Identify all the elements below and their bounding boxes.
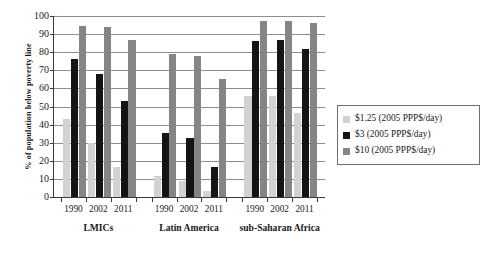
- legend-swatch-icon: [343, 132, 350, 139]
- x-tick-mark: [152, 197, 153, 202]
- y-tick-label: 80: [39, 47, 49, 57]
- bar: [186, 138, 193, 197]
- bar: [277, 40, 284, 197]
- x-tick-mark: [177, 197, 178, 202]
- bar: [96, 74, 103, 197]
- x-tick-mark: [242, 197, 243, 202]
- y-tick-label: 100: [34, 11, 49, 21]
- bar: [211, 167, 218, 197]
- x-axis-group-label: Latin America: [159, 222, 218, 233]
- x-tick-mark: [267, 197, 268, 202]
- x-tick-mark: [292, 197, 293, 202]
- x-axis-year-label: 2011: [114, 204, 132, 214]
- bar: [71, 59, 78, 197]
- bar: [128, 40, 135, 197]
- x-tick-mark: [86, 197, 87, 202]
- y-tick-label: 30: [39, 138, 49, 148]
- bar: [63, 119, 70, 197]
- bar: [88, 143, 95, 197]
- x-axis-year-label: 2002: [89, 204, 108, 214]
- bar-chart: % of population below poverty line 01020…: [0, 0, 484, 254]
- x-axis: 199020022011LMICs199020022011Latin Ameri…: [53, 197, 325, 254]
- bar: [179, 181, 186, 197]
- y-axis-title: % of population below poverty line: [24, 17, 33, 197]
- x-axis-group-label: LMICs: [83, 222, 113, 233]
- x-tick-mark: [226, 197, 227, 202]
- x-axis-year-label: 2002: [180, 204, 199, 214]
- bar: [219, 79, 226, 197]
- x-axis-year-label: 2002: [270, 204, 289, 214]
- legend-item-label: $1.25 (2005 PPP$/day): [355, 114, 442, 123]
- bar: [260, 21, 267, 197]
- legend-swatch-icon: [343, 148, 350, 155]
- x-axis-year-label: 1990: [155, 204, 174, 214]
- bar: [162, 133, 169, 197]
- x-axis-year-label: 1990: [64, 204, 83, 214]
- bar: [169, 54, 176, 197]
- legend-item: $10 (2005 PPP$/day): [343, 143, 475, 159]
- legend-item-label: $3 (2005 PPP$/day): [355, 130, 431, 139]
- bar: [194, 56, 201, 197]
- legend-item: $3 (2005 PPP$/day): [343, 127, 475, 143]
- y-tick-label: 50: [39, 102, 49, 112]
- x-tick-mark: [61, 197, 62, 202]
- bar: [285, 21, 292, 197]
- bars-layer: [54, 16, 325, 197]
- x-tick-mark: [317, 197, 318, 202]
- x-axis-year-label: 2011: [295, 204, 313, 214]
- bar: [244, 96, 251, 197]
- bar: [252, 41, 259, 197]
- y-tick-label: 90: [39, 29, 49, 39]
- legend-item: $1.25 (2005 PPP$/day): [343, 111, 475, 127]
- bar: [113, 167, 120, 197]
- y-tick-label: 10: [39, 174, 49, 184]
- y-tick-label: 0: [44, 192, 49, 202]
- x-axis-year-label: 1990: [245, 204, 264, 214]
- y-tick-label: 20: [39, 156, 49, 166]
- bar: [104, 27, 111, 197]
- y-tick-label: 70: [39, 65, 49, 75]
- bar: [79, 26, 86, 197]
- bar: [294, 113, 301, 197]
- legend-swatch-icon: [343, 116, 350, 123]
- x-tick-mark: [136, 197, 137, 202]
- x-axis-group-label: sub-Saharan Africa: [240, 222, 320, 233]
- y-tick-label: 60: [39, 83, 49, 93]
- bar: [269, 96, 276, 197]
- chart-legend: $1.25 (2005 PPP$/day)$3 (2005 PPP$/day)$…: [337, 105, 480, 165]
- plot-area: 0102030405060708090100: [53, 16, 325, 197]
- y-tick-label: 40: [39, 120, 49, 130]
- legend-item-label: $10 (2005 PPP$/day): [355, 146, 435, 155]
- bar: [310, 23, 317, 197]
- bar: [154, 176, 161, 197]
- bar: [302, 49, 309, 197]
- x-tick-mark: [201, 197, 202, 202]
- bar: [121, 101, 128, 197]
- x-tick-mark: [111, 197, 112, 202]
- x-axis-year-label: 2011: [205, 204, 223, 214]
